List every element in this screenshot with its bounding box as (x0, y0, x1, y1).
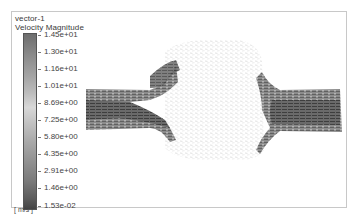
outlet-core (270, 100, 340, 125)
vector-field-plot (0, 0, 358, 219)
chamber-region (165, 40, 264, 160)
